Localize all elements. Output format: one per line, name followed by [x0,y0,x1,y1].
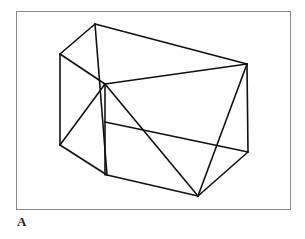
panel-label: A [17,214,27,230]
figure-page: A [0,0,305,239]
figure-frame-border [16,11,291,210]
